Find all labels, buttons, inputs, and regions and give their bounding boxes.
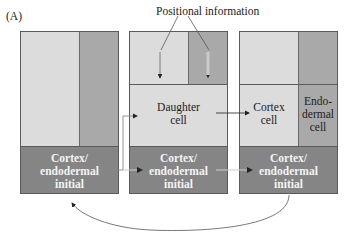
cycle-arrow xyxy=(72,195,289,231)
positional-info-pointers xyxy=(160,16,209,78)
arrows-layer xyxy=(0,0,359,246)
division-arrows-1-2 xyxy=(108,116,142,170)
